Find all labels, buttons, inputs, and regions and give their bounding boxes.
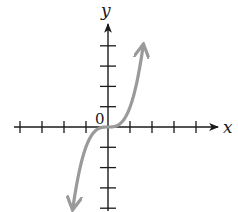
cubic-function-graph: x y 0 xyxy=(0,0,238,212)
x-axis-label: x xyxy=(223,117,233,137)
origin-label: 0 xyxy=(95,110,105,128)
y-axis-label: y xyxy=(100,0,111,20)
